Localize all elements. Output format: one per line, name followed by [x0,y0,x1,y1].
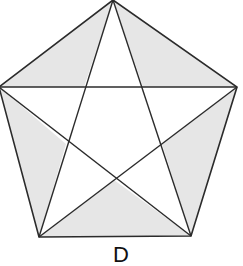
diagram-caption: D [0,244,243,266]
